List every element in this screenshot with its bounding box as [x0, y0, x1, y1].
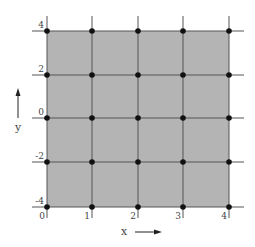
y-tick-labels: 4 2 0 -2 -4 — [35, 20, 44, 206]
grid-diagram: 4 2 0 -2 -4 0 1 2 3 4 y x — [0, 0, 255, 247]
y-tick-label: -4 — [35, 196, 44, 206]
y-arrowhead-icon — [16, 88, 21, 96]
y-tick-label: 2 — [38, 64, 44, 74]
x-tick-label: 3 — [175, 211, 181, 221]
x-tick-label: 2 — [130, 211, 136, 221]
x-tick-label: 4 — [221, 211, 227, 221]
x-axis-label: x — [121, 225, 128, 238]
y-tick-label: -2 — [35, 151, 44, 161]
y-axis-label: y — [14, 121, 22, 134]
x-axis-indicator: x — [121, 225, 162, 238]
x-arrowhead-icon — [154, 230, 162, 235]
y-tick-label: 4 — [38, 20, 44, 30]
x-tick-label: 1 — [84, 211, 90, 221]
x-tick-labels: 0 1 2 3 4 — [39, 211, 227, 221]
x-tick-label: 0 — [39, 211, 45, 221]
y-axis-indicator: y — [14, 88, 22, 134]
y-tick-label: 0 — [38, 107, 44, 117]
